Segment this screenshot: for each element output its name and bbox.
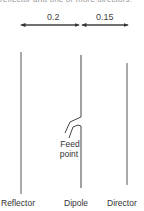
dimension-label-reflector-dipole: 0.2 [47,12,60,22]
dipole-upper-element [65,55,81,133]
feed-point-label-line2: point [57,149,81,159]
feed-point-label-line1: Feed [59,139,81,149]
director-label: Director [107,198,137,208]
reflector-label: Reflector [1,198,35,208]
yagi-antenna-diagram [0,0,144,211]
dipole-label: Dipole [64,198,88,208]
dimension-label-dipole-director: 0.15 [96,12,114,22]
